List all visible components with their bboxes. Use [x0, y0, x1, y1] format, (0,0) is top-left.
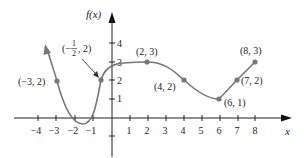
graph-svg: −4 −3 −2 −1 1 2 3 4 5 6 7 8 1 2 3 4 f(x)… — [0, 0, 304, 158]
y-tick-labels: 1 2 3 4 — [117, 38, 122, 104]
label-neghalf-2-open: (− — [62, 43, 71, 55]
label-4-2: (4, 2) — [154, 81, 176, 93]
x-tick-label: 8 — [253, 125, 258, 136]
x-tick-label: 5 — [199, 125, 204, 136]
x-tick-label: 7 — [235, 125, 240, 136]
x-tick-label: 3 — [163, 125, 168, 136]
point-7-2 — [234, 77, 239, 82]
x-tick-label: −2 — [68, 125, 79, 136]
label-2-3: (2, 3) — [136, 46, 158, 58]
x-tick-label: −3 — [49, 125, 60, 136]
x-tick-label: 1 — [127, 125, 132, 136]
y-tick-label: 4 — [117, 38, 122, 49]
x-tick-label: −1 — [86, 125, 97, 136]
point-4-2 — [181, 77, 186, 82]
function-graph: −4 −3 −2 −1 1 2 3 4 5 6 7 8 1 2 3 4 f(x)… — [0, 0, 304, 158]
point-2-3 — [144, 59, 149, 64]
label-neghalf-num: 1 — [72, 39, 76, 48]
point-8-3 — [252, 59, 257, 64]
label-8-3: (8, 3) — [240, 45, 262, 57]
x-tick-label: 6 — [217, 125, 222, 136]
point-neghalf-2 — [98, 77, 103, 82]
point-neg3-2 — [54, 78, 59, 83]
x-tick-label: −4 — [31, 125, 42, 136]
label-neghalf-2-close: , 2) — [78, 43, 91, 55]
y-tick-label: 1 — [117, 93, 122, 104]
x-tick-label: 4 — [181, 125, 186, 136]
label-pointer — [82, 59, 96, 74]
y-tick-label: 2 — [117, 75, 122, 86]
function-curve — [48, 52, 255, 124]
x-axis-label: x — [284, 125, 290, 137]
y-axis — [109, 12, 116, 157]
x-tick-labels: −4 −3 −2 −1 1 2 3 4 5 6 7 8 — [31, 125, 258, 136]
label-7-2: (7, 2) — [241, 75, 263, 87]
label-neghalf-den: 2 — [72, 49, 76, 58]
x-tick-label: 2 — [145, 125, 150, 136]
y-axis-label: f(x) — [86, 8, 102, 21]
y-axis-arrow-icon — [109, 12, 116, 23]
label-neg3-2: (−3, 2) — [18, 76, 45, 88]
point-6-1 — [216, 96, 221, 101]
curve-arrow-icon — [44, 44, 52, 55]
label-6-1: (6, 1) — [224, 97, 246, 109]
x-axis-arrow-icon — [281, 115, 292, 122]
